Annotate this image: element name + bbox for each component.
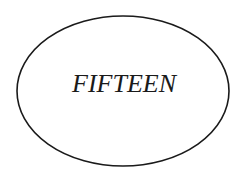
diagram-canvas: FIFTEEN xyxy=(0,0,244,178)
ellipse-label: FIFTEEN xyxy=(71,69,178,98)
